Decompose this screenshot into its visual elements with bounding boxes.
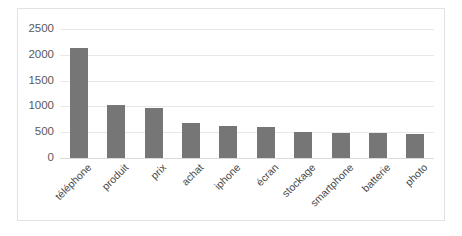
x-tick-label-text: iphone [212,161,243,192]
bar [332,133,350,158]
plot-area [60,29,434,158]
x-tick-label-text: achat [179,161,206,188]
y-tick-label: 500 [14,126,54,138]
x-tick-label-text: photo [403,161,430,188]
bar [369,133,387,158]
x-tick-label-text: stockage [279,161,317,199]
y-tick-label: 2000 [14,49,54,61]
bar [182,123,200,158]
bar [145,108,163,158]
x-tick-label-text: produit [99,161,130,192]
y-tick-label: 0 [14,152,54,164]
y-axis: 05001000150020002500 [18,29,54,158]
y-tick-label: 2500 [14,23,54,35]
x-axis: téléphoneproduitprixachatiphoneécranstoc… [60,161,434,221]
gridline-0 [60,158,434,159]
bar-series [60,29,434,158]
y-tick-label: 1500 [14,75,54,87]
bar [70,48,88,158]
x-tick-label-text: écran [253,161,280,188]
y-tick-label: 1000 [14,101,54,113]
chart-frame: 05001000150020002500 téléphoneproduitpri… [17,8,445,221]
x-tick-label-text: prix [148,161,168,181]
x-tick-label-text: téléphone [52,161,93,202]
bar [257,127,275,158]
bar [406,134,424,158]
bar [107,105,125,158]
x-tick-label-text: batterie [359,161,392,194]
bar [294,132,312,158]
bar [219,126,237,158]
